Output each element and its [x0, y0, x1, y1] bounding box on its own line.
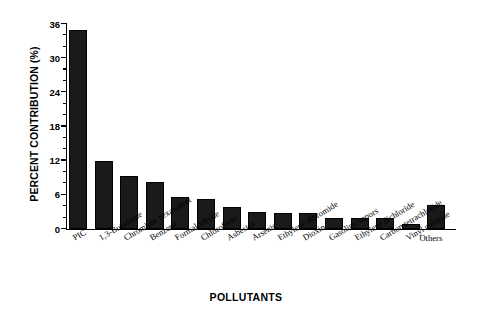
y-axis-tick-labels: 061218243036: [36, 24, 60, 229]
y-tick-minor: [63, 68, 67, 69]
y-tick-label: 12: [49, 156, 60, 165]
y-tick-minor: [63, 80, 67, 81]
y-tick-minor: [63, 34, 67, 35]
y-tick-minor: [63, 217, 67, 218]
y-tick-major: [61, 228, 67, 229]
y-tick-label: 36: [49, 20, 60, 29]
y-tick-major: [61, 125, 67, 126]
plot-area: 061218243036: [66, 24, 456, 229]
y-tick-major: [61, 57, 67, 58]
x-axis-tick-labels: PIC1,3-ButadieneChromium hexavalentBenze…: [66, 231, 486, 293]
y-axis-line: [66, 24, 67, 229]
x-tick-label: Others: [419, 233, 442, 243]
y-tick-major: [61, 194, 67, 195]
y-tick-label: 24: [49, 88, 60, 97]
y-tick-minor: [63, 137, 67, 138]
y-tick-minor: [63, 182, 67, 183]
chart-figure: PERCENT CONTRIBUTION (%) 061218243036 PI…: [0, 0, 492, 316]
y-tick-minor: [63, 46, 67, 47]
bar: [69, 30, 87, 229]
y-tick-label: 18: [49, 122, 60, 131]
y-tick-major: [61, 91, 67, 92]
y-tick-minor: [63, 103, 67, 104]
y-tick-major: [61, 159, 67, 160]
y-tick-major: [61, 23, 67, 24]
x-axis-title: POLLUTANTS: [0, 291, 492, 303]
bar: [95, 161, 113, 229]
y-tick-minor: [63, 148, 67, 149]
y-tick-minor: [63, 171, 67, 172]
y-tick-minor: [63, 114, 67, 115]
y-tick-label: 0: [55, 225, 60, 234]
y-tick-minor: [63, 205, 67, 206]
y-tick-label: 30: [49, 54, 60, 63]
y-tick-label: 6: [55, 190, 60, 199]
